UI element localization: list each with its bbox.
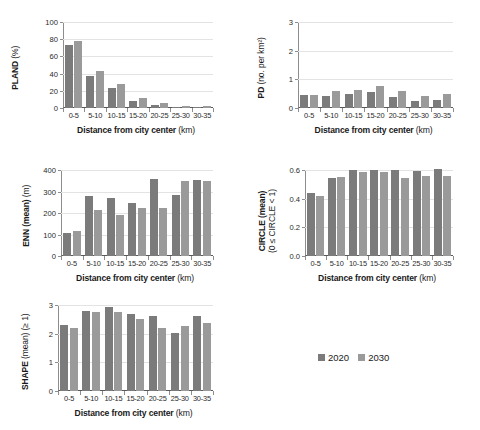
x-tick-mark: [102, 391, 103, 395]
x-tick-label: 15-20: [368, 256, 389, 268]
x-tick-label: 25-30: [170, 256, 192, 268]
x-tick-mark: [411, 256, 412, 260]
bar-2030-10-15: [116, 215, 124, 256]
x-tick-mark: [213, 108, 214, 112]
bar-group-0-5: [298, 22, 320, 108]
y-tick-label: 0: [49, 387, 53, 396]
bar-2030-30-35: [203, 181, 211, 256]
x-tick-mark: [169, 391, 170, 395]
y-tick-label: 100: [45, 18, 58, 27]
x-tick-mark: [127, 108, 128, 112]
x-tick-label: 15-20: [126, 256, 148, 268]
y-axis-title-circle: CIRCLE (mean) (0 ≤ CIRCLE < 1): [257, 171, 277, 271]
bar-group-10-15: [342, 22, 364, 108]
x-axis-title-enn: Distance from city center (km): [38, 273, 232, 283]
x-tick-label: 30-35: [191, 391, 213, 403]
bar-2020-25-30: [172, 195, 180, 256]
x-tick-mark: [364, 108, 365, 112]
bar-2030-25-30: [421, 96, 429, 108]
x-tick-label: 25-30: [170, 108, 191, 120]
x-axis-title-pd: Distance from city center (km): [275, 125, 472, 135]
x-tick-label: 5-10: [320, 108, 342, 120]
bar-2030-20-25: [398, 91, 406, 108]
x-tick-mark: [61, 256, 62, 260]
x-tick-mark: [170, 256, 171, 260]
bar-2030-0-5: [74, 41, 82, 108]
bar-2030-25-30: [181, 326, 189, 391]
figure-panel-grid: PLAND (%) 020406080100 0-55-1010-1515-20…: [0, 0, 480, 430]
y-tick-label: 2: [49, 329, 53, 338]
bar-2020-0-5: [307, 193, 315, 256]
bar-group-25-30: [170, 22, 191, 108]
y-tick-label: 0: [54, 104, 58, 113]
y-tick-label: 0.4: [289, 194, 300, 203]
x-tick-label: 25-30: [411, 256, 432, 268]
y-tick-label: 400: [43, 166, 56, 175]
bar-group-30-35: [431, 22, 453, 108]
x-tick-mark: [84, 108, 85, 112]
x-tick-mark: [58, 391, 59, 395]
x-tick-label: 20-25: [149, 108, 170, 120]
y-tick-label: 60: [50, 52, 58, 61]
bar-2020-15-20: [127, 314, 135, 391]
x-axis-title-circle: Distance from city center (km): [282, 273, 472, 283]
bar-2020-0-5: [60, 325, 68, 391]
x-tick-mark: [368, 256, 369, 260]
chart-panel-shape: SHAPE (mean) (≥ 1) 0123 0-55-1010-1515-2…: [0, 285, 240, 430]
bar-2030-10-15: [354, 90, 362, 108]
bar-2030-0-5: [310, 95, 318, 108]
plot-area-pd: 0123 0-55-1010-1515-2020-2525-3030-35: [298, 22, 453, 108]
x-tick-mark: [191, 256, 192, 260]
bar-series-shape: [58, 305, 213, 391]
bar-2020-5-10: [86, 76, 94, 108]
x-tick-mark: [104, 256, 105, 260]
y-tick-label: 300: [43, 187, 56, 196]
y-tick-label: 40: [50, 69, 58, 78]
bar-2030-15-20: [376, 86, 384, 108]
bar-2030-20-25: [401, 178, 409, 256]
bar-2030-0-5: [70, 328, 78, 391]
bar-2030-10-15: [359, 172, 367, 256]
bar-group-0-5: [61, 170, 83, 256]
bar-2030-5-10: [337, 177, 345, 256]
bar-series-circle: [305, 170, 453, 256]
x-tick-mark: [387, 108, 388, 112]
x-tick-label: 0-5: [305, 256, 326, 268]
plot-area-pland: 020406080100 0-55-1010-1515-2020-2525-30…: [63, 22, 213, 108]
bar-group-15-20: [126, 170, 148, 256]
bar-group-25-30: [170, 170, 192, 256]
bar-2020-20-25: [391, 170, 399, 256]
legend-swatch-icon-2020: [318, 354, 325, 361]
x-tick-label: 30-35: [191, 256, 213, 268]
y-tick-label: 0: [289, 104, 293, 113]
bar-group-30-35: [191, 170, 213, 256]
bar-2020-20-25: [149, 316, 157, 391]
x-tick-label: 25-30: [169, 391, 191, 403]
bar-2030-15-20: [136, 319, 144, 391]
x-tick-label: 5-10: [326, 256, 347, 268]
bar-group-25-30: [409, 22, 431, 108]
bar-2030-5-10: [332, 91, 340, 108]
bar-group-5-10: [83, 170, 105, 256]
bar-2030-0-5: [73, 231, 81, 256]
bar-2030-30-35: [443, 94, 451, 108]
bar-2020-15-20: [370, 170, 378, 256]
bar-group-10-15: [106, 22, 127, 108]
y-tick-label: 1: [289, 75, 293, 84]
bar-2030-5-10: [92, 312, 100, 391]
bar-group-5-10: [320, 22, 342, 108]
bar-2020-20-25: [150, 179, 158, 256]
bar-2020-0-5: [65, 45, 73, 108]
legend-label-2030: 2030: [368, 352, 389, 363]
bar-group-25-30: [411, 170, 432, 256]
x-tick-labels-pland: 0-55-1010-1515-2020-2525-3030-35: [63, 108, 213, 120]
bar-group-30-35: [192, 22, 213, 108]
legend-label-2020: 2020: [328, 352, 349, 363]
y-tick-label: 0: [52, 252, 56, 261]
bar-group-20-25: [387, 22, 409, 108]
bar-2020-5-10: [322, 96, 330, 108]
y-tick-label: 200: [43, 209, 56, 218]
y-tick-label: 0.6: [289, 166, 300, 175]
chart-panel-enn: ENN (mean) (m) 0100200300400 0-55-1010-1…: [0, 145, 240, 290]
y-axis-title-pland: PLAND (%): [11, 32, 21, 104]
